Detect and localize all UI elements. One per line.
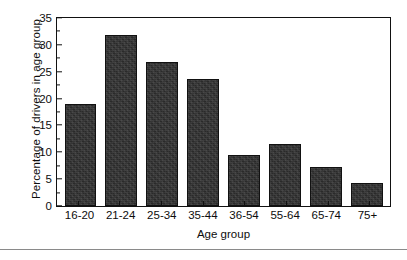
bar-slot (183, 18, 224, 206)
x-tick-label: 21-24 (100, 209, 141, 221)
y-tick-label: 25 (39, 66, 52, 78)
y-tick-label: 35 (39, 12, 52, 24)
x-tick-label: 65-74 (306, 209, 347, 221)
x-tick-mark (328, 201, 329, 206)
bar-chart-figure: Percentage of drivers in age group 05101… (0, 0, 407, 260)
plot-area: 05101520253035 (56, 17, 391, 207)
x-tick-label: 36-54 (224, 209, 265, 221)
x-axis-tick-labels: 16-2021-2425-3435-4436-5455-6465-7475+ (56, 209, 391, 221)
bar[interactable] (105, 35, 137, 206)
x-tick-mark (244, 201, 245, 206)
y-tick-label: 5 (46, 173, 52, 185)
bar-slot (101, 18, 142, 206)
x-tick-label: 35-44 (182, 209, 223, 221)
y-tick-label: 30 (39, 39, 52, 51)
y-tick-label: 0 (46, 200, 52, 212)
x-tick-label: 75+ (347, 209, 388, 221)
bar-slot (346, 18, 387, 206)
bar-series (57, 18, 390, 206)
x-tick-mark (203, 201, 204, 206)
x-tick-label: 16-20 (59, 209, 100, 221)
y-tick-label: 20 (39, 93, 52, 105)
bar-slot (264, 18, 305, 206)
bar[interactable] (187, 79, 219, 206)
plot-inner: 05101520253035 (57, 18, 390, 206)
bar[interactable] (228, 155, 260, 206)
bar-slot (142, 18, 183, 206)
x-tick-mark (78, 201, 79, 206)
y-tick-label: 10 (39, 146, 52, 158)
x-tick-mark (161, 201, 162, 206)
bar[interactable] (146, 62, 178, 206)
x-tick-label: 55-64 (265, 209, 306, 221)
y-axis-label: Percentage of drivers in age group (30, 0, 42, 219)
bar-slot (224, 18, 265, 206)
bar-slot (60, 18, 101, 206)
y-tick-label: 15 (39, 119, 52, 131)
x-tick-mark (286, 201, 287, 206)
bar-slot (305, 18, 346, 206)
footer-rule (0, 249, 407, 250)
x-tick-mark (119, 201, 120, 206)
bar[interactable] (65, 104, 97, 206)
bar[interactable] (310, 167, 342, 206)
bar[interactable] (269, 144, 301, 206)
bar[interactable] (351, 183, 383, 206)
x-tick-label: 25-34 (141, 209, 182, 221)
x-tick-mark (369, 201, 370, 206)
x-axis-label: Age group (56, 228, 391, 240)
